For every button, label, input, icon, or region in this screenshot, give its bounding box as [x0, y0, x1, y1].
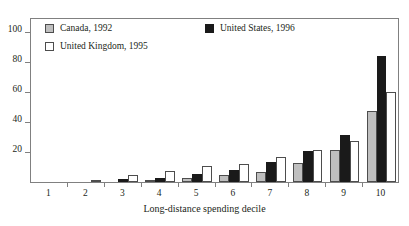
bar-united-kingdom [128, 175, 138, 183]
bar-united-kingdom [313, 150, 323, 182]
legend-item-canada: Canada, 1992 [45, 24, 112, 34]
bar-united-states [192, 174, 202, 182]
x-tick-mark [67, 183, 68, 187]
x-tick-label: 6 [221, 189, 245, 199]
bar-united-kingdom [276, 157, 286, 182]
x-tick-mark [178, 183, 179, 187]
bar-united-kingdom [91, 180, 101, 182]
bar-canada [182, 178, 192, 183]
x-tick-mark [104, 183, 105, 187]
x-tick-label: 7 [258, 189, 282, 199]
legend-label-united-states: United States, 1996 [220, 24, 295, 34]
bar-united-states [377, 56, 387, 182]
bar-canada [293, 163, 303, 182]
bar-united-states [155, 178, 165, 183]
bar-united-states [303, 151, 313, 183]
bar-united-kingdom [239, 164, 249, 182]
white-swatch-icon [45, 42, 54, 51]
x-tick-mark [325, 183, 326, 187]
y-tick-label: 40 [13, 115, 23, 125]
x-tick-mark [141, 183, 142, 187]
y-tick-label: 60 [13, 85, 23, 95]
y-tick-label: 20 [13, 145, 23, 155]
x-tick-mark [362, 183, 363, 187]
x-tick-label: 5 [184, 189, 208, 199]
legend-item-united-states: United States, 1996 [205, 24, 295, 34]
bar-united-kingdom [165, 171, 175, 182]
bar-canada [219, 175, 229, 182]
x-tick-label: 8 [295, 189, 319, 199]
bar-united-states [118, 179, 128, 182]
bar-united-kingdom [350, 141, 360, 182]
x-tick-label: 9 [332, 189, 356, 199]
x-tick-label: 3 [110, 189, 134, 199]
x-axis-title: Long-distance spending decile [0, 203, 409, 214]
x-tick-label: 2 [73, 189, 97, 199]
y-tick-label: 80 [13, 55, 23, 65]
x-tick-mark [251, 183, 252, 187]
x-tick-mark [215, 183, 216, 187]
bar-canada [330, 150, 340, 182]
x-tick-label: 10 [369, 189, 393, 199]
black-swatch-icon [205, 24, 214, 33]
y-tick-label: 100 [8, 25, 22, 35]
chart-legend: Canada, 1992 United Kingdom, 1995 United… [45, 24, 345, 58]
bar-canada [145, 180, 155, 182]
bar-canada [256, 172, 266, 183]
legend-item-united-kingdom: United Kingdom, 1995 [45, 42, 148, 52]
x-tick-mark [288, 183, 289, 187]
legend-label-united-kingdom: United Kingdom, 1995 [60, 42, 148, 52]
bar-united-kingdom [386, 92, 396, 182]
gray-swatch-icon [45, 24, 54, 33]
x-tick-label: 4 [147, 189, 171, 199]
bar-united-states [340, 135, 350, 182]
bar-canada [367, 111, 377, 182]
bar-chart: 20406080100 12345678910 Long-distance sp… [0, 0, 409, 226]
legend-label-canada: Canada, 1992 [60, 24, 112, 34]
bar-united-kingdom [202, 166, 212, 183]
x-tick-label: 1 [36, 189, 60, 199]
bar-united-states [266, 162, 276, 182]
bar-united-states [229, 170, 239, 182]
